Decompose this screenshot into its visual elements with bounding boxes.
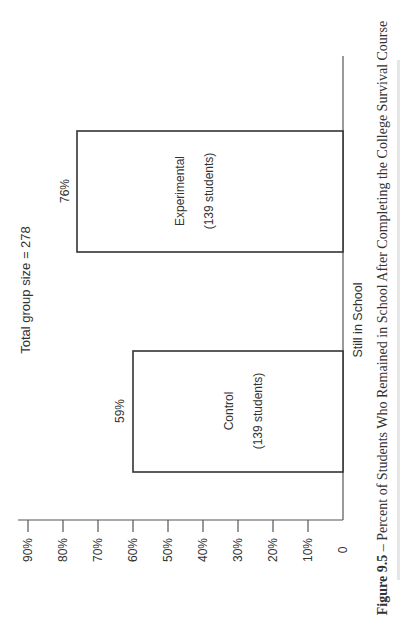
tick-label: 40% — [196, 538, 210, 562]
bar-value-label-experimental: 76% — [58, 179, 72, 203]
tick-label: 0 — [336, 546, 350, 553]
bar-name-control: Control — [222, 392, 236, 431]
tick-label: 20% — [266, 538, 280, 562]
tick-label: 60% — [126, 538, 140, 562]
tick-label: 30% — [231, 538, 245, 562]
tick-label: 70% — [91, 538, 105, 562]
bar-sublabel-experimental: (139 students) — [202, 153, 216, 230]
bar-control — [133, 351, 343, 472]
chart-title: Total group size = 278 — [18, 226, 33, 354]
tick-label: 50% — [161, 538, 175, 562]
bar-chart: 010%20%30%40%50%60%70%80%90% 76% 59% Exp… — [0, 0, 400, 631]
bar-value-label-control: 59% — [113, 399, 127, 423]
tick-label: 10% — [301, 538, 315, 562]
tick-label: 90% — [21, 538, 35, 562]
category-label: Still in School — [351, 282, 365, 357]
tick-label: 80% — [56, 538, 70, 562]
value-axis-tick-labels: 010%20%30%40%50%60%70%80%90% — [21, 538, 350, 562]
figure-caption-text: – Percent of Students Who Remained in Sc… — [375, 21, 390, 555]
bar-sublabel-control: (139 students) — [251, 373, 265, 450]
value-axis-ticks — [28, 520, 308, 532]
bar-name-experimental: Experimental — [173, 156, 187, 226]
figure-caption-label: Figure 9.5 — [375, 555, 390, 615]
figure-caption: Figure 9.5 – Percent of Students Who Rem… — [375, 21, 390, 615]
